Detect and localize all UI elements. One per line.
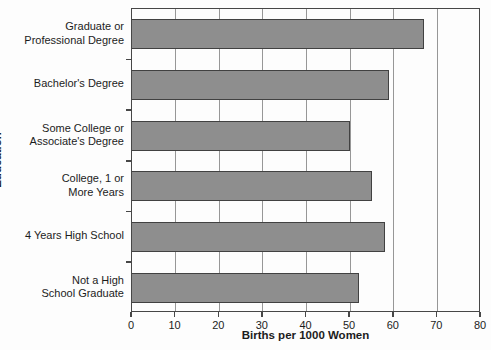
y-axis-tick [126, 160, 131, 162]
category-label: Bachelor's Degree [2, 77, 124, 91]
category-label: Some College or Associate's Degree [2, 121, 124, 148]
bar [132, 121, 350, 151]
x-axis-tick [479, 312, 481, 317]
x-tick-label: 70 [430, 319, 442, 331]
gridline [393, 9, 394, 311]
x-axis-tick [261, 312, 263, 317]
bar [132, 222, 385, 252]
category-label: 4 Years High School [2, 229, 124, 243]
x-tick-label: 30 [256, 319, 268, 331]
x-tick-label: 10 [169, 319, 181, 331]
bar [132, 70, 389, 100]
gridline [306, 9, 307, 311]
gridline [350, 9, 351, 311]
x-axis-tick [218, 312, 220, 317]
category-label: Not a High School Graduate [2, 273, 124, 300]
bar [132, 273, 359, 303]
y-axis-tick [126, 261, 131, 263]
x-tick-label: 20 [212, 319, 224, 331]
category-label: College, 1 or More Years [2, 172, 124, 199]
y-axis-tick [126, 59, 131, 61]
x-tick-label: 40 [299, 319, 311, 331]
x-tick-label: 50 [343, 319, 355, 331]
bar-chart-figure: Education Births per 1000 Women Graduate… [0, 0, 491, 350]
x-tick-label: 0 [128, 319, 134, 331]
gridline [262, 9, 263, 311]
gridline [175, 9, 176, 311]
y-axis-tick [126, 211, 131, 213]
category-label: Graduate or Professional Degree [2, 20, 124, 47]
x-axis-tick [436, 312, 438, 317]
bar [132, 171, 372, 201]
bar [132, 19, 424, 49]
x-axis-tick [348, 312, 350, 317]
y-axis-tick [126, 109, 131, 111]
x-tick-label: 80 [474, 319, 486, 331]
gridline [437, 9, 438, 311]
x-axis-tick [130, 312, 132, 317]
x-axis-tick [392, 312, 394, 317]
plot-area [131, 8, 480, 312]
gridline [219, 9, 220, 311]
x-tick-label: 60 [387, 319, 399, 331]
x-axis-tick [174, 312, 176, 317]
x-axis-tick [305, 312, 307, 317]
